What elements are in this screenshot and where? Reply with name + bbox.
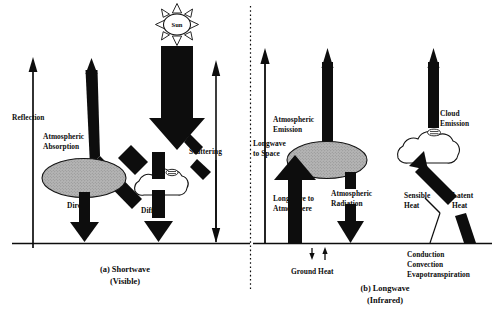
diffuse-arrow [144,152,173,242]
direct-arrow [70,192,99,242]
sun-icon: Sun [156,4,199,46]
atmospheric-emission-label-line2: Emission [273,125,302,134]
atmospheric-radiation-label-line1: Atmospheric [331,189,373,198]
sensible-heat-label-line2: Heat [404,201,420,210]
caption-shortwave-line1: (a) Shortwave [100,265,150,274]
atmospheric-absorption-label-line1: Atmospheric [43,132,85,141]
radiation-diagram-figure: Sun Reflection Scatter [0,0,502,317]
transfer-label-line3: Evapotranspiration [407,270,470,279]
reflection-arrow [29,57,38,248]
diagram-canvas: Sun Reflection Scatter [0,0,502,317]
ground-heat-label: Ground Heat [291,267,334,276]
longwave-to-atmosphere-label-line2: Atmosphere [273,204,313,213]
cloud-longwave [398,129,460,163]
atmospheric-emission-label-line1: Atmospheric [273,115,315,124]
sensible-heat-label-line1: Sensible [404,191,431,200]
ground-heat-arrows [309,247,327,260]
atmospheric-absorption-ellipse [42,159,126,198]
caption-longwave-line1: (b) Longwave [360,284,409,293]
latent-heat-label-line1: Latent [452,191,474,200]
atmospheric-radiation-label-line2: Radiation [331,199,363,208]
cloud-emission-label-line1: Cloud [440,109,460,118]
shortwave-panel: Sun Reflection Scatter [12,4,250,287]
caption-longwave-line2: (Infrared) [367,296,403,305]
sun-label: Sun [171,21,182,28]
longwave-panel: Longwave to Space Atmospheric Emission L… [253,48,492,305]
diffuse-label: Diffuse [141,206,165,215]
latent-heat-label-line2: Heat [452,201,468,210]
atmospheric-absorption-label-line2: Absorption [43,142,79,151]
longwave-to-atmosphere-label-line1: Longwave to [273,194,314,203]
scatter-segment-lower [190,159,211,180]
cloud-emission-up-arrow [428,48,440,128]
latent-heat-arrow [455,213,476,243]
longwave-to-space-label-line1: Longwave [253,139,287,148]
scattering-down-arrow [212,160,220,243]
longwave-to-space-label-line2: to Space [253,149,281,158]
incoming-solar-arrow [149,46,205,150]
transfer-label-line2: Convection [407,260,443,269]
reflection-label: Reflection [12,113,45,122]
atmospheric-emission-up-arrow [322,48,334,142]
cloud-emission-label-line2: Emission [440,119,469,128]
scattering-label: Scattering [189,147,222,156]
transfer-label-line1: Conduction [407,250,444,259]
caption-shortwave-line2: (Visible) [110,277,140,286]
direct-label: Direct [67,201,87,210]
